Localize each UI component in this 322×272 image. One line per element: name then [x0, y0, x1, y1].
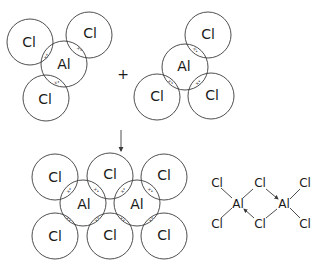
- plus-sign: +: [117, 66, 129, 82]
- al-symbol: Al: [177, 58, 190, 74]
- shared-electron-pair: x•: [93, 215, 101, 223]
- cl-symbol: Cl: [201, 26, 215, 42]
- cl-symbol: Cl: [48, 169, 62, 185]
- cl-symbol: Cl: [254, 176, 266, 190]
- shared-electron-pair: x•: [147, 215, 155, 223]
- shared-electron-pair: x•: [167, 78, 175, 86]
- bond-line: [243, 189, 253, 198]
- cl-symbol: Cl: [103, 227, 117, 243]
- cl-symbol: Cl: [22, 34, 36, 50]
- reactant-1-alcl3: Al Cl Cl Cl x• x• x•: [7, 12, 112, 121]
- structural-formula: Cl Cl Al Cl Cl Al Cl Cl: [211, 176, 311, 231]
- bond-line: [290, 189, 300, 199]
- al-symbol: Al: [278, 197, 290, 211]
- cl-symbol: Cl: [157, 227, 171, 243]
- shared-electron-pair: x•: [76, 45, 84, 53]
- cl-symbol: Cl: [211, 217, 223, 231]
- reactant-2-alcl3: Al Cl Cl Cl x• x• x•: [134, 12, 234, 120]
- dative-bond-arrow: [244, 209, 254, 218]
- cl-symbol: Cl: [299, 176, 311, 190]
- cl-symbol: Cl: [103, 166, 117, 182]
- al-symbol: Al: [130, 196, 143, 212]
- cl-symbol: Cl: [48, 228, 62, 244]
- shared-electron-pair: x•: [42, 52, 50, 60]
- shared-electron-pair: x•: [119, 215, 127, 223]
- cl-symbol: Cl: [205, 87, 219, 103]
- al-symbol: Al: [232, 197, 244, 211]
- aluminium-chloride-diagram: Al Cl Cl Cl x• x• x• + Al Cl Cl Cl x• x•…: [0, 0, 322, 272]
- cl-symbol: Cl: [254, 217, 266, 231]
- al-symbol: Al: [57, 56, 70, 72]
- cl-symbol: Cl: [211, 176, 223, 190]
- cl-symbol: Cl: [157, 167, 171, 183]
- shared-electron-pair: x•: [54, 79, 61, 86]
- cl-symbol: Cl: [83, 25, 97, 41]
- dative-bond-arrow: [266, 189, 278, 199]
- al-symbol: Al: [77, 196, 90, 212]
- cl-symbol: Cl: [38, 91, 52, 107]
- product-al2cl6: Cl Cl Cl Al Al Cl Cl Cl x• x• x• x• x• x…: [32, 153, 187, 259]
- cl-symbol: Cl: [150, 88, 164, 104]
- bond-line: [266, 209, 277, 218]
- cl-symbol: Cl: [299, 217, 311, 231]
